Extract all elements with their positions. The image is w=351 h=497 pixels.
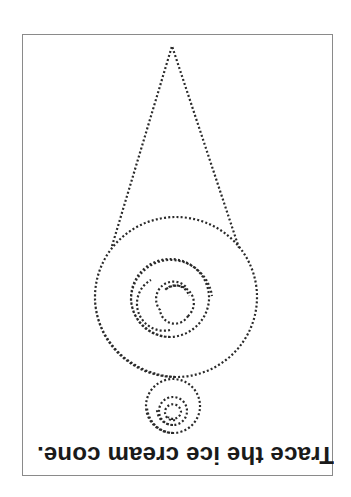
ice-cream-cone-drawing [0,0,351,497]
instruction-text: Trace the ice cream cone. [36,442,334,468]
small-scoop-spiral [146,379,200,433]
large-scoop-spiral [95,217,257,377]
cone-outline [112,46,239,248]
